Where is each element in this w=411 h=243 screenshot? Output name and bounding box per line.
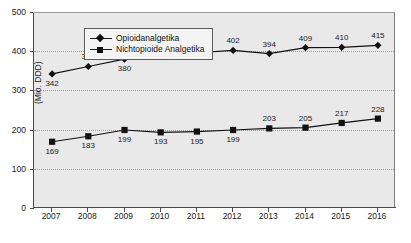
point-value-label: 199 (110, 136, 140, 144)
line-chart: (Mio. DDD) 0100200300400500 342361380387… (0, 0, 411, 243)
square-marker-icon (90, 44, 112, 55)
point-value-label: 169 (37, 148, 67, 156)
point-value-label: 410 (327, 34, 357, 42)
point-value-label: 409 (291, 35, 321, 43)
square-marker (121, 127, 127, 133)
diamond-marker (266, 50, 273, 57)
legend-item-label: Opioidanalgetika (116, 33, 179, 44)
y-tick-label: 400 (0, 47, 26, 56)
x-tick-label: 2016 (354, 212, 400, 221)
y-tick-mark (30, 208, 34, 209)
square-marker (302, 125, 308, 131)
diamond-marker (85, 63, 92, 70)
legend-item-opioidanalgetika[interactable]: Opioidanalgetika (90, 33, 204, 44)
diamond-marker (49, 70, 56, 77)
y-tick-label: 500 (0, 8, 26, 17)
diamond-marker (338, 44, 345, 51)
point-value-label: 380 (110, 65, 140, 73)
point-value-label: 342 (37, 80, 67, 88)
square-marker (194, 128, 200, 134)
point-value-label: 195 (182, 138, 212, 146)
point-value-label: 205 (291, 115, 321, 123)
plot-area: (Mio. DDD) 0100200300400500 342361380387… (33, 12, 395, 208)
square-marker (49, 139, 55, 145)
point-value-label: 394 (254, 41, 284, 49)
legend-item-nichtopioide-analgetika[interactable]: Nichtopioide Analgetika (90, 44, 204, 55)
point-value-label: 402 (218, 37, 248, 45)
square-marker (339, 120, 345, 126)
legend: Opioidanalgetika Nichtopioide Analgetika (84, 28, 213, 60)
y-tick-label: 200 (0, 126, 26, 135)
diamond-marker (374, 42, 381, 49)
y-tick-label: 300 (0, 86, 26, 95)
diamond-marker (230, 47, 237, 54)
square-marker (85, 133, 91, 139)
legend-item-label: Nichtopioide Analgetika (116, 44, 204, 55)
point-value-label: 203 (254, 115, 284, 123)
plot-top-border (33, 12, 395, 13)
square-marker (230, 127, 236, 133)
diamond-marker-icon (90, 33, 112, 44)
point-value-label: 183 (73, 142, 103, 150)
point-value-label: 217 (327, 110, 357, 118)
point-value-label: 228 (363, 106, 393, 114)
point-value-label: 415 (363, 32, 393, 40)
square-marker (266, 125, 272, 131)
point-value-label: 193 (146, 138, 176, 146)
diamond-marker (302, 44, 309, 51)
series-line (52, 119, 378, 142)
point-value-label: 199 (218, 136, 248, 144)
y-tick-label: 100 (0, 165, 26, 174)
y-tick-label: 0 (0, 204, 26, 213)
square-marker (375, 116, 381, 122)
square-marker (158, 129, 164, 135)
